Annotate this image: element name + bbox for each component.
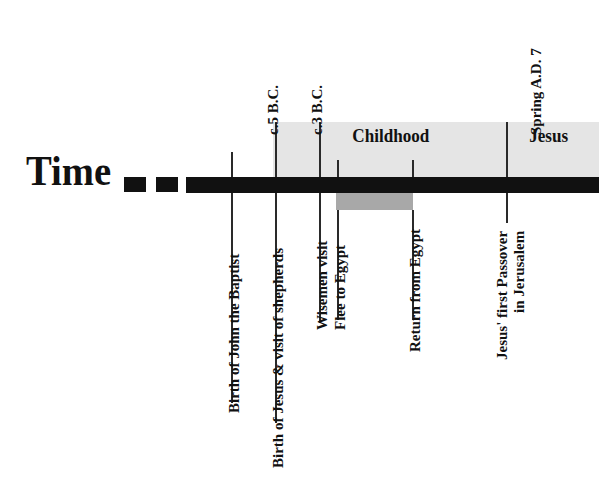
era-label-childhood: Childhood	[352, 125, 429, 147]
tick-passover-below	[506, 193, 508, 223]
date-label-spring-ad7: Spring A.D. 7	[528, 48, 545, 135]
time-axis-bar	[186, 177, 599, 193]
event-label-return-egypt: Return from Egypt	[407, 229, 424, 352]
event-label-passover: Jesus' first Passover in Jerusalem	[494, 231, 529, 360]
tick-birth-john-above	[231, 152, 233, 177]
event-label-passover-line1: Jesus' first Passover	[494, 231, 510, 360]
timeline-figure: Time Childhood Jesus c.5 B.C. c.3 B.C. S…	[0, 0, 599, 484]
tick-return-egypt-above	[412, 160, 414, 177]
date-label-c5-bc: c.5 B.C.	[265, 85, 282, 135]
period-box-egypt	[336, 192, 413, 210]
date-label-c3-bc: c.3 B.C.	[309, 85, 326, 135]
tick-flee-egypt-above	[337, 160, 339, 177]
time-word-label: Time	[26, 150, 111, 192]
time-dash-1	[124, 177, 146, 192]
event-label-wisemen: Wisemen visit	[314, 241, 331, 330]
event-label-flee-egypt: Flee to Egypt	[332, 245, 349, 330]
era-band-divider	[506, 122, 508, 177]
event-label-birth-john: Birth of John the Baptist	[226, 254, 243, 413]
event-label-birth-jesus: Birth of Jesus & visit of shepherds	[270, 248, 287, 468]
time-dash-2	[156, 177, 178, 192]
event-label-passover-line2: in Jerusalem	[511, 231, 528, 360]
